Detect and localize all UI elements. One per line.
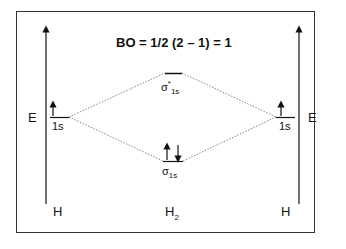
sigma-symbol: σ: [162, 165, 169, 177]
orbital-sub: 1s: [169, 171, 177, 180]
sigma-symbol: σ: [161, 81, 168, 93]
orbital-sub: 1s: [171, 87, 179, 96]
energy-label-right: E: [308, 111, 317, 124]
energy-label-left: E: [28, 111, 37, 124]
right-atom-label: H: [281, 205, 290, 218]
bond-order-title: BO = 1/2 (2 – 1) = 1: [116, 36, 232, 49]
molecule-label: H2: [165, 205, 179, 222]
right-orbital-label: 1s: [279, 121, 291, 132]
antibonding-label: σ*1s: [161, 80, 179, 96]
left-orbital-label: 1s: [52, 121, 64, 132]
molecule-main: H: [165, 204, 174, 219]
left-atom-label: H: [53, 205, 62, 218]
molecule-sub: 2: [174, 213, 178, 222]
bonding-label: σ1s: [162, 166, 177, 180]
